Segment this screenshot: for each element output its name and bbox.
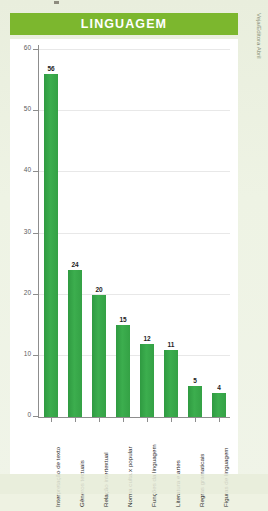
y-tick-mark (33, 171, 38, 172)
y-tick-mark (33, 233, 38, 234)
y-tick-mark (33, 49, 38, 50)
bar (44, 74, 58, 417)
y-tick-label: 60 (24, 44, 31, 51)
y-tick-label: 20 (24, 288, 31, 295)
bar-value-label: 24 (71, 261, 78, 268)
y-axis-line (38, 45, 39, 418)
page-title: LINGUAGEM (81, 17, 167, 31)
gridline (39, 171, 230, 172)
chart-card: 0102030405060 56242015121154 Interpretaç… (10, 39, 238, 474)
bar-value-label: 5 (193, 377, 197, 384)
bar-value-label: 12 (143, 335, 150, 342)
scan-artifact-speck (54, 1, 59, 4)
gridline (39, 233, 230, 234)
bar-value-label: 20 (95, 286, 102, 293)
y-tick-label: 40 (24, 166, 31, 173)
y-tick-label: 0 (27, 411, 31, 418)
y-tick-mark (33, 416, 38, 417)
x-tick-mark (219, 418, 220, 422)
x-tick-mark (147, 418, 148, 422)
gridline (39, 49, 230, 50)
x-tick-mark (75, 418, 76, 422)
x-tick-mark (171, 418, 172, 422)
x-tick-mark (99, 418, 100, 422)
x-tick-mark (123, 418, 124, 422)
bar-value-label: 15 (119, 316, 126, 323)
y-tick-label: 30 (24, 227, 31, 234)
image-credit: Veja/Editora Abril (253, 13, 267, 133)
y-tick-mark (33, 355, 38, 356)
y-tick-mark (33, 294, 38, 295)
y-tick-label: 50 (24, 105, 31, 112)
x-axis-line (38, 417, 230, 418)
y-tick-label: 10 (24, 349, 31, 356)
credit-text: Veja/Editora Abril (256, 13, 262, 59)
plot-area: 0102030405060 56242015121154 (38, 45, 230, 418)
bar (68, 270, 82, 417)
bar (212, 393, 226, 417)
bar-value-label: 56 (47, 65, 54, 72)
page-bottom-strip (0, 474, 268, 494)
bar-value-label: 11 (168, 341, 175, 348)
x-tick-mark (195, 418, 196, 422)
bar (92, 295, 106, 417)
y-tick-mark (33, 110, 38, 111)
bar (164, 350, 178, 417)
gridline (39, 110, 230, 111)
x-tick-mark (51, 418, 52, 422)
bar (188, 386, 202, 417)
bar (116, 325, 130, 417)
x-axis-category-labels: Interpretação de textoGêneros textuaisRe… (38, 423, 230, 511)
chart-title-banner: LINGUAGEM (10, 13, 238, 35)
bar (140, 344, 154, 417)
bar-value-label: 4 (217, 384, 221, 391)
